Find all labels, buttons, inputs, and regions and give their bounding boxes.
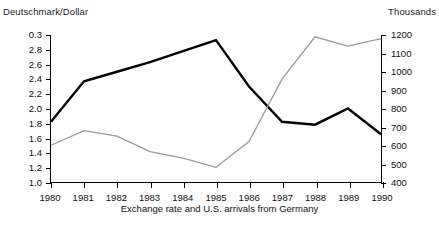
chart-lines <box>51 35 381 182</box>
y-tick-right <box>381 165 386 166</box>
y-tick-label-right: 400 <box>391 178 407 188</box>
x-tick <box>151 182 152 188</box>
x-tick-label: 1986 <box>239 192 260 203</box>
y-tick-left <box>46 94 51 95</box>
y-tick-label-left: 0.3 <box>0 30 42 40</box>
x-tick-label: 1985 <box>205 192 226 203</box>
x-tick <box>184 182 185 188</box>
x-tick-label: 1984 <box>172 192 193 203</box>
x-tick <box>317 182 318 188</box>
y-tick-label-right: 500 <box>391 160 407 170</box>
x-tick-label: 1988 <box>305 192 326 203</box>
x-tick <box>117 182 118 188</box>
y-tick-right <box>381 54 386 55</box>
y-tick-label-left: 1.4 <box>0 149 42 159</box>
y-tick-left <box>46 153 51 154</box>
plot-area <box>50 35 382 183</box>
x-tick <box>84 182 85 188</box>
x-tick <box>350 182 351 188</box>
y-tick-left <box>46 35 51 36</box>
y-tick-left <box>46 65 51 66</box>
y-tick-label-right: 1200 <box>391 30 412 40</box>
y-tick-label-left: 1.0 <box>0 178 42 188</box>
series-line-1 <box>51 37 381 167</box>
y-tick-label-right: 1100 <box>391 49 411 59</box>
y-tick-right <box>381 146 386 147</box>
x-tick-label: 1980 <box>39 192 60 203</box>
x-tick-label: 1983 <box>139 192 160 203</box>
chart-caption: Exchange rate and U.S. arrivals from Ger… <box>0 203 439 214</box>
y-tick-label-left: 2.0 <box>0 104 42 114</box>
y-tick-label-left: 1.6 <box>0 134 42 144</box>
y-tick-label-left: 2.6 <box>0 60 42 70</box>
x-tick <box>283 182 284 188</box>
left-axis-title: Deutschmark/Dollar <box>3 6 88 17</box>
y-tick-left <box>46 168 51 169</box>
x-tick-label: 1982 <box>106 192 127 203</box>
y-tick-label-left: 1.8 <box>0 119 42 129</box>
y-tick-left <box>46 79 51 80</box>
y-tick-label-right: 900 <box>391 86 407 96</box>
y-tick-label-right: 600 <box>391 141 407 151</box>
y-tick-label-left: 2.8 <box>0 45 42 55</box>
y-tick-label-left: 1.2 <box>0 163 42 173</box>
y-tick-left <box>46 50 51 51</box>
y-tick-right <box>381 72 386 73</box>
y-tick-label-right: 700 <box>391 123 407 133</box>
y-tick-left <box>46 139 51 140</box>
y-tick-right <box>381 35 386 36</box>
x-tick-label: 1990 <box>371 192 392 203</box>
x-tick-label: 1981 <box>73 192 94 203</box>
y-tick-left <box>46 109 51 110</box>
x-tick-label: 1987 <box>272 192 293 203</box>
y-tick-right <box>381 128 386 129</box>
chart-figure: Deutschmark/Dollar Thousands Exchange ra… <box>0 0 439 226</box>
x-tick <box>383 182 384 188</box>
x-tick-label: 1989 <box>338 192 359 203</box>
y-tick-right <box>381 91 386 92</box>
y-tick-label-left: 2.2 <box>0 89 42 99</box>
series-line-0 <box>51 40 381 134</box>
x-tick <box>250 182 251 188</box>
y-tick-label-left: 2.4 <box>0 75 42 85</box>
y-tick-label-right: 800 <box>391 104 407 114</box>
x-tick <box>51 182 52 188</box>
y-tick-right <box>381 109 386 110</box>
x-tick <box>217 182 218 188</box>
right-axis-title: Thousands <box>388 6 436 17</box>
y-tick-label-right: 1000 <box>391 67 412 77</box>
y-tick-left <box>46 124 51 125</box>
